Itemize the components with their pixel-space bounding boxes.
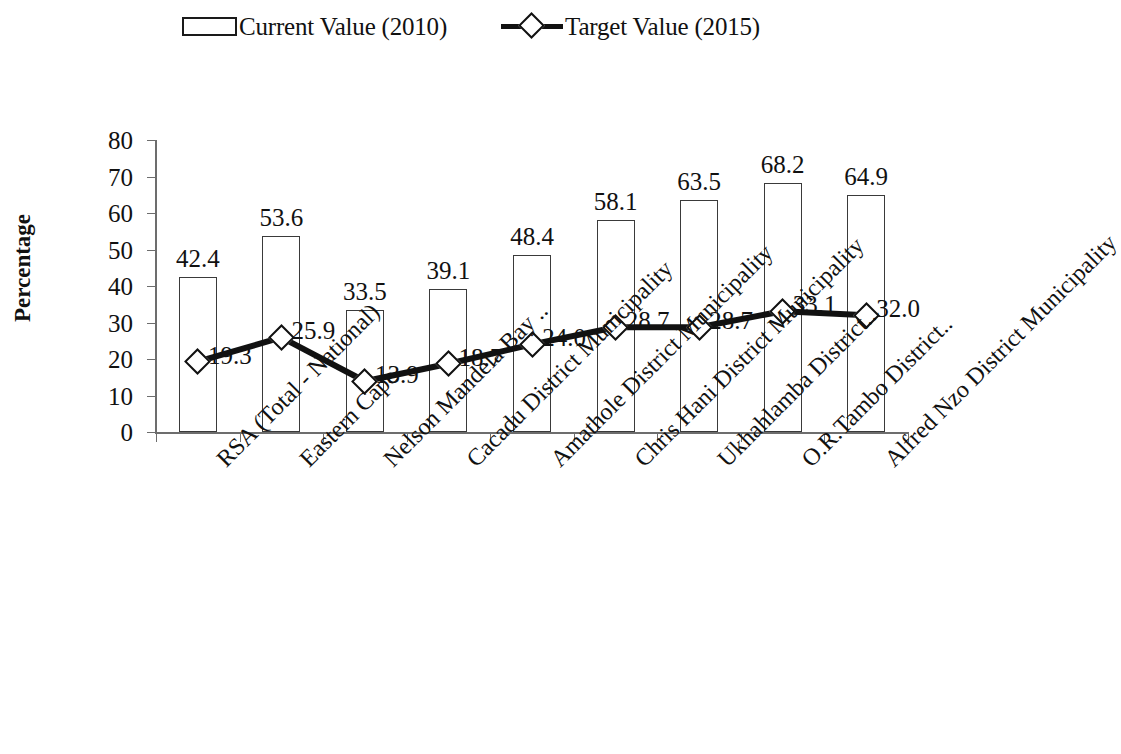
legend-entry-target-value[interactable]: Target Value (2015): [501, 14, 760, 39]
x-axis-tick: [156, 432, 157, 442]
y-axis-tick-label: 10: [108, 383, 133, 408]
y-axis-tick: 40: [147, 286, 156, 287]
y-axis-tick-label: 0: [121, 420, 134, 445]
y-axis-tick: 20: [147, 359, 156, 360]
y-axis-title: Percentage: [10, 188, 36, 348]
y-axis-tick-label: 50: [108, 237, 133, 262]
y-axis-tick-label: 80: [108, 128, 133, 153]
legend-label-current-value: Current Value (2010): [239, 14, 447, 39]
x-axis-tick: [407, 432, 408, 442]
line-value-label: 19.3: [208, 343, 252, 368]
plot-area: 01020304050607080 42.453.633.539.148.458…: [156, 140, 908, 432]
x-axis-tick: [574, 432, 575, 442]
legend-entry-current-value[interactable]: Current Value (2010): [182, 14, 447, 39]
line-value-label: 28.7: [626, 308, 670, 333]
x-axis-tick: [657, 432, 658, 442]
line-diamond-icon: [501, 16, 563, 36]
line-value-label: 24.0: [542, 325, 586, 350]
line-value-label: 25.9: [291, 318, 335, 343]
y-axis-tick: 70: [147, 177, 156, 178]
y-axis-tick: 10: [147, 396, 156, 397]
chart-legend: Current Value (2010) Target Value (2015): [0, 6, 942, 46]
line-value-label: 28.7: [709, 308, 753, 333]
x-axis-tick: [240, 432, 241, 442]
x-axis-line: [155, 432, 909, 434]
x-axis-category-label: Alfred Nzo District Municipality: [880, 230, 1121, 471]
x-axis-tick: [824, 432, 825, 442]
y-axis-tick: 0: [147, 432, 156, 433]
x-axis-tick: [323, 432, 324, 442]
x-axis-tick: [741, 432, 742, 442]
y-axis-tick-label: 40: [108, 274, 133, 299]
x-axis-tick: [908, 432, 909, 442]
y-axis-tick: 60: [147, 213, 156, 214]
y-axis-tick-label: 20: [108, 347, 133, 372]
line-series-target-value: [156, 140, 908, 432]
y-axis-tick: 30: [147, 323, 156, 324]
legend-label-target-value: Target Value (2015): [565, 14, 760, 39]
bar-swatch-icon: [182, 17, 237, 36]
line-value-label: 18.7: [459, 345, 503, 370]
x-axis-tick: [490, 432, 491, 442]
line-value-label: 32.0: [876, 296, 920, 321]
y-axis-tick-label: 30: [108, 310, 133, 335]
y-axis-tick: 50: [147, 250, 156, 251]
y-axis-tick-label: 70: [108, 164, 133, 189]
line-value-label: 13.9: [375, 362, 419, 387]
y-axis-tick-label: 60: [108, 201, 133, 226]
y-axis-tick: 80: [147, 140, 156, 141]
line-value-label: 33.1: [793, 292, 837, 317]
